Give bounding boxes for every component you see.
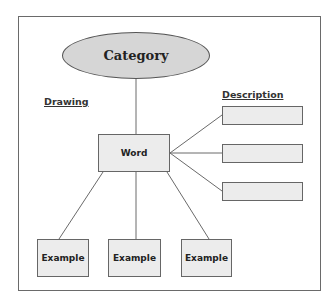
description-label: Description — [222, 89, 283, 100]
example-node-2: Example — [108, 239, 161, 277]
word-node: Word — [98, 134, 170, 172]
example-node-3: Example — [181, 239, 232, 277]
category-node: Category — [62, 32, 210, 79]
description-box-3 — [222, 182, 303, 201]
description-box-1 — [222, 106, 303, 125]
example-node-1: Example — [37, 239, 89, 277]
description-box-2 — [222, 144, 303, 163]
drawing-label: Drawing — [44, 96, 89, 107]
